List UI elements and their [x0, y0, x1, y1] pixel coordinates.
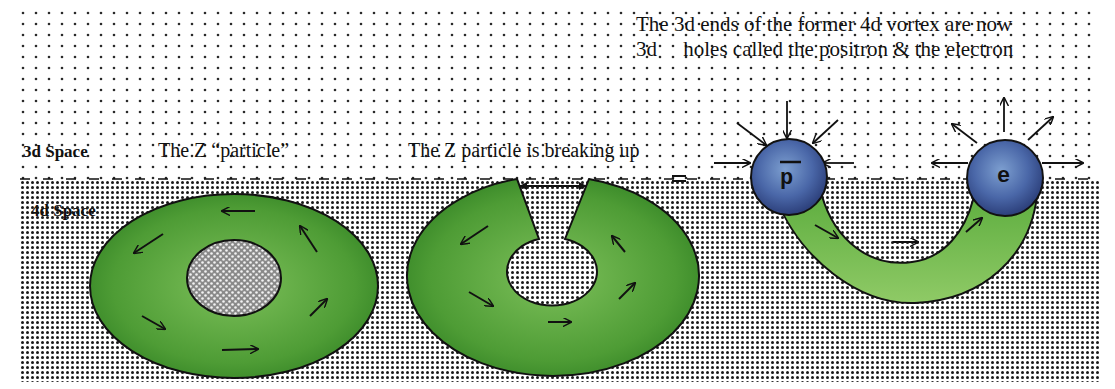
space-3d-label: 3d Space — [23, 143, 88, 160]
z-particle-core — [187, 240, 281, 316]
z-breaking-label: The Z particle is breaking up — [408, 140, 640, 160]
diagram-canvas: The 3d ends of the former 4d vortex are … — [0, 0, 1115, 389]
caption-line-1: The 3d ends of the former 4d vortex are … — [636, 14, 1012, 35]
electron-symbol: e — [997, 166, 1010, 188]
positron-symbol: p — [780, 168, 793, 190]
caption-line-2: 3d holes called the positron & the elect… — [636, 39, 1013, 60]
z-particle-ring — [90, 194, 378, 378]
space-4d-label: 4d Space — [31, 202, 96, 219]
z-particle-label: The Z “particle” — [158, 140, 289, 160]
